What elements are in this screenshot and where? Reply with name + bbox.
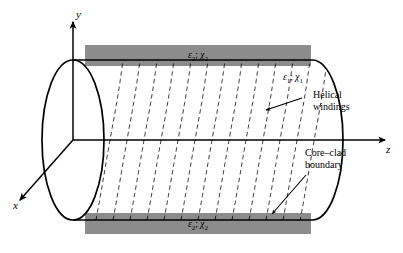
figure-canvas (0, 0, 403, 253)
top-cladding-epsilon-sub: 2 (192, 55, 196, 63)
helical-windings-annotation: Helical windings (313, 89, 350, 112)
fiber-waveguide-figure: y x z ε2; χ2 ε2; χ2 ε1; χ1 Helical windi… (0, 0, 403, 253)
bottom-cladding-epsilon-sub: 2 (192, 224, 196, 232)
helical-windings-line1: Helical (313, 89, 350, 101)
bottom-cladding-label: ε2; χ2 (188, 219, 208, 233)
z-axis-label: z (386, 143, 390, 155)
top-cladding-chi-sub: 2 (204, 55, 208, 63)
core-chi-sub: 1 (299, 77, 303, 85)
x-axis (20, 140, 73, 200)
core-clad-boundary-line1: Core–clad (305, 147, 346, 159)
helical-windings-line2: windings (313, 101, 350, 113)
core-label: ε1; χ1 (283, 72, 303, 86)
core-clad-boundary-line2: boundary (305, 159, 346, 171)
bottom-cladding-chi-sub: 2 (204, 224, 208, 232)
core-epsilon-sub: 1 (287, 77, 291, 85)
top-cladding-label: ε2; χ2 (188, 50, 208, 64)
helical-windings-leader-arrow (266, 98, 302, 110)
core-clad-boundary-leader-arrow (272, 175, 306, 214)
core-clad-boundary-annotation: Core–clad boundary (305, 147, 346, 170)
x-axis-label: x (13, 199, 18, 211)
y-axis-label: y (76, 8, 81, 20)
